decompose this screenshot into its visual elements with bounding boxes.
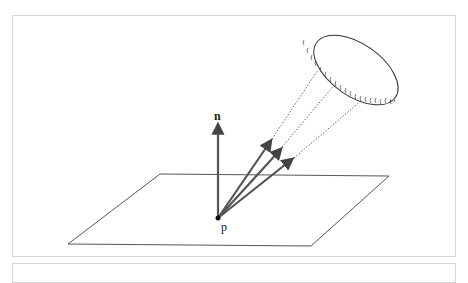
area-light <box>302 21 410 119</box>
incident-ray-3 <box>218 160 291 218</box>
incident-ray-1 <box>218 142 270 218</box>
point-label: p <box>221 220 227 234</box>
point-p <box>216 216 221 221</box>
normal-label: n <box>214 109 221 123</box>
incident-ray-2 <box>218 150 280 218</box>
